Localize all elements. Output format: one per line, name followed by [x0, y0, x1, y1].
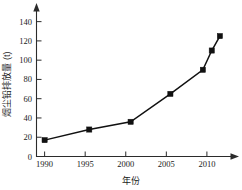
y-tick-label: 60	[24, 94, 33, 104]
data-point-marker	[168, 91, 173, 96]
y-tick-label: 40	[24, 113, 33, 123]
y-tick-label: 120	[19, 36, 32, 46]
data-point-marker	[209, 48, 214, 53]
y-axis-arrow-icon	[33, 3, 39, 12]
data-point-marker	[87, 127, 92, 132]
x-tick-label: 2010	[198, 159, 215, 169]
y-axis-title: 烟尘铅排放量 (t)	[1, 52, 12, 117]
data-point-marker	[200, 67, 205, 72]
x-tick-label: 1995	[77, 159, 94, 169]
y-tick-label: 100	[19, 55, 32, 65]
x-axis-title: 年份	[122, 175, 140, 186]
y-tick-label: 20	[24, 132, 33, 142]
line-chart-plot: 020406080100120140 19901995200020052010 …	[0, 0, 242, 190]
x-tick-label: 2005	[158, 159, 175, 169]
x-tick-label: 1990	[36, 159, 53, 169]
y-tick-label: 0	[28, 152, 32, 162]
x-axis-arrow-icon	[231, 153, 240, 159]
data-point-marker	[217, 33, 222, 38]
y-tick-label: 140	[19, 17, 32, 27]
x-tick-label: 2000	[117, 159, 134, 169]
data-point-marker	[42, 138, 47, 143]
series-markers	[42, 33, 222, 142]
data-point-marker	[128, 119, 133, 124]
chart-figure: 020406080100120140 19901995200020052010 …	[0, 0, 242, 190]
y-tick-label: 80	[24, 74, 33, 84]
y-axis-ticks: 020406080100120140	[19, 17, 41, 162]
x-axis-ticks: 19901995200020052010	[36, 152, 215, 170]
